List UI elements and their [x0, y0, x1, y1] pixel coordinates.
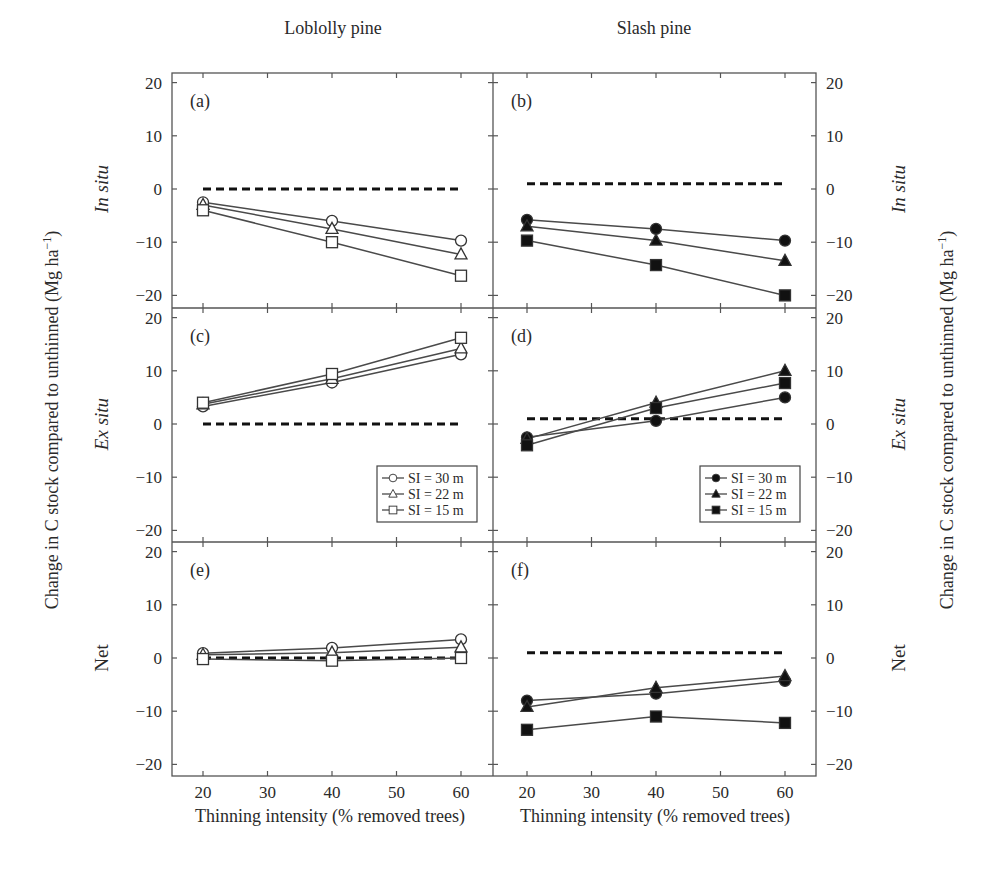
- y-tick-label: 0: [826, 649, 835, 668]
- row-label-ex-situ-right: Ex situ: [888, 398, 909, 451]
- x-tick-label: 60: [453, 783, 470, 802]
- circle-marker: [651, 415, 662, 426]
- y-tick-label: −20: [135, 755, 162, 774]
- y-tick-label: 20: [145, 543, 162, 562]
- x-tick-label: 30: [583, 783, 600, 802]
- y-tick-label: 10: [826, 596, 843, 615]
- legend-entry: SI = 15 m: [731, 503, 787, 518]
- panel-f: (f): [511, 560, 791, 735]
- square-marker: [198, 654, 209, 665]
- x-tick-label: 40: [648, 783, 665, 802]
- triangle-marker: [779, 364, 791, 375]
- square-marker: [780, 717, 791, 728]
- y-tick-label: −10: [135, 233, 162, 252]
- square-marker: [389, 506, 397, 514]
- legend-entry: SI = 30 m: [408, 471, 464, 486]
- square-marker: [522, 440, 533, 451]
- x-tick-label: 50: [388, 783, 405, 802]
- panel-d: (d)SI = 30 mSI = 22 mSI = 15 m: [511, 326, 800, 522]
- y-tick-label: 20: [145, 74, 162, 93]
- square-marker: [456, 270, 467, 281]
- circle-marker: [389, 474, 397, 482]
- x-tick-label: 20: [519, 783, 536, 802]
- panel-a: (a): [190, 91, 467, 281]
- y-tick-label: −20: [826, 521, 853, 540]
- y-tick-label: 0: [154, 649, 163, 668]
- y-tick-label: 10: [145, 127, 162, 146]
- panel-label: (e): [190, 560, 210, 581]
- row-label-in-situ-right: In situ: [888, 165, 909, 214]
- row-label-net-left: Net: [91, 644, 112, 672]
- square-marker: [651, 711, 662, 722]
- y-tick-label: −20: [135, 286, 162, 305]
- y-tick-label: 10: [145, 362, 162, 381]
- y-tick-label: 20: [826, 543, 843, 562]
- panel-e: (e): [190, 560, 467, 666]
- legend-entry: SI = 22 m: [731, 487, 787, 502]
- row-label-in-situ-left: In situ: [91, 165, 112, 214]
- legend-entry: SI = 15 m: [408, 503, 464, 518]
- y-tick-label: −10: [826, 233, 853, 252]
- x-tick-label: 60: [777, 783, 794, 802]
- column-title-loblolly: Loblolly pine: [284, 18, 382, 38]
- legend-entry: SI = 22 m: [408, 487, 464, 502]
- panel-b: (b): [511, 91, 791, 301]
- panel-label: (f): [511, 560, 529, 581]
- circle-marker: [780, 235, 791, 246]
- panel-label: (c): [190, 326, 210, 347]
- square-marker: [780, 378, 791, 389]
- panels-layer: (a)(b)(c)SI = 30 mSI = 22 mSI = 15 m(d)S…: [190, 91, 800, 735]
- y-tick-label: −10: [135, 702, 162, 721]
- circle-marker: [780, 392, 791, 403]
- square-marker: [651, 403, 662, 414]
- x-tick-label: 50: [712, 783, 729, 802]
- axes-layer: 2020101000−10−10−20−202020101000−10−10−2…: [135, 73, 852, 802]
- y-tick-label: 0: [826, 415, 835, 434]
- y-tick-label: 10: [145, 596, 162, 615]
- square-marker: [456, 332, 467, 343]
- panel-label: (b): [511, 91, 532, 112]
- square-marker: [327, 368, 338, 379]
- y-tick-label: 20: [145, 309, 162, 328]
- square-marker: [198, 205, 209, 216]
- x-tick-label: 40: [324, 783, 341, 802]
- triangle-marker: [779, 670, 791, 681]
- square-marker: [327, 237, 338, 248]
- x-axis-title-slash: Thinning intensity (% removed trees): [520, 806, 790, 827]
- panel-label: (a): [190, 91, 210, 112]
- square-marker: [712, 506, 720, 514]
- square-marker: [522, 724, 533, 735]
- y-tick-label: 20: [826, 74, 843, 93]
- square-marker: [327, 655, 338, 666]
- y-tick-label: −10: [826, 702, 853, 721]
- panel-c: (c)SI = 30 mSI = 22 mSI = 15 m: [190, 326, 477, 522]
- circle-marker: [712, 474, 720, 482]
- square-marker: [198, 397, 209, 408]
- y-tick-label: 10: [826, 127, 843, 146]
- y-axis-title-right: Change in C stock compared to unthinned …: [935, 231, 958, 610]
- row-label-ex-situ-left: Ex situ: [91, 398, 112, 451]
- y-tick-label: 0: [154, 415, 163, 434]
- panel-label: (d): [511, 326, 532, 347]
- legend-entry: SI = 30 m: [731, 471, 787, 486]
- square-marker: [522, 235, 533, 246]
- figure-canvas: Loblolly pine Slash pine Change in C sto…: [0, 0, 1001, 875]
- y-tick-label: 0: [826, 180, 835, 199]
- x-axis-title-loblolly: Thinning intensity (% removed trees): [195, 806, 465, 827]
- y-tick-label: −20: [826, 286, 853, 305]
- y-tick-label: −10: [826, 468, 853, 487]
- y-tick-label: 20: [826, 309, 843, 328]
- y-axis-title-left: Change in C stock compared to unthinned …: [40, 231, 63, 610]
- legend: SI = 30 mSI = 22 mSI = 15 m: [700, 466, 800, 522]
- circle-marker: [456, 235, 467, 246]
- y-tick-label: −20: [135, 521, 162, 540]
- x-tick-label: 30: [259, 783, 276, 802]
- y-tick-label: 0: [154, 180, 163, 199]
- y-tick-label: 10: [826, 362, 843, 381]
- legend: SI = 30 mSI = 22 mSI = 15 m: [377, 466, 477, 522]
- square-marker: [651, 260, 662, 271]
- y-tick-label: −10: [135, 468, 162, 487]
- square-marker: [456, 653, 467, 664]
- y-tick-label: −20: [826, 755, 853, 774]
- column-title-slash: Slash pine: [617, 18, 692, 38]
